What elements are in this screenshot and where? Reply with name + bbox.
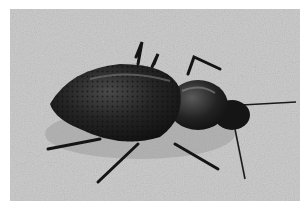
beetle-photo bbox=[10, 9, 300, 201]
beetle-illustration bbox=[10, 9, 300, 201]
